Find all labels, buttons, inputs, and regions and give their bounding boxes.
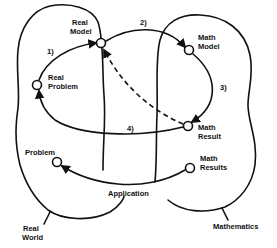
edge-2-real-model-to-math-model	[106, 30, 185, 47]
mathematics-pointer	[222, 208, 228, 220]
step-2-label: 2)	[140, 18, 147, 27]
node-problem	[53, 158, 62, 167]
label-real-problem-1: Real	[48, 73, 64, 82]
label-math-results-2: Results	[200, 163, 227, 172]
node-real-model	[97, 39, 106, 48]
node-real-problem	[33, 81, 42, 90]
real-world-region	[16, 5, 124, 219]
mathematics-label: Mathematics	[213, 222, 258, 231]
label-math-result-1: Math	[198, 123, 216, 132]
label-real-problem-2: Problem	[48, 82, 78, 91]
label-real-model-1: Real	[72, 18, 88, 27]
edge-dashed-math-result-to-real-model	[104, 50, 183, 124]
step-4-label: 4)	[127, 124, 134, 133]
edge-3-math-model-to-math-result	[192, 54, 212, 122]
node-math-results	[186, 164, 195, 173]
real-world-label-2: World	[22, 233, 44, 242]
application-label: Application	[108, 189, 149, 198]
step-1-label: 1)	[47, 47, 54, 56]
step-3-label: 3)	[220, 83, 227, 92]
label-math-results-1: Math	[200, 154, 218, 163]
node-math-result	[184, 122, 193, 131]
modeling-cycle-diagram: Real Model Math Model Real Problem Math …	[0, 0, 277, 248]
label-real-model-2: Model	[70, 27, 92, 36]
real-world-pointer	[44, 212, 50, 224]
label-math-result-2: Result	[198, 132, 221, 141]
real-world-label-1: Real	[23, 224, 39, 233]
label-math-model-2: Model	[198, 42, 220, 51]
node-math-model	[185, 46, 194, 55]
edge-application-math-results-to-problem	[62, 166, 185, 184]
label-math-model-1: Math	[198, 33, 216, 42]
edge-4-math-result-to-real-problem	[39, 91, 183, 134]
label-problem: Problem	[25, 148, 55, 157]
